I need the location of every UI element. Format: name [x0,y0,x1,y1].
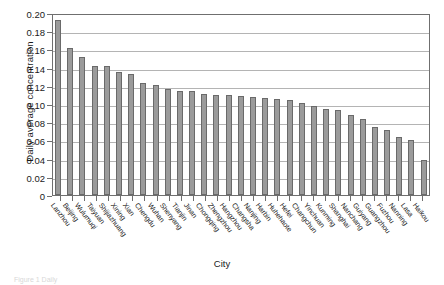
bar [311,106,317,195]
bar [67,48,73,195]
y-tick-label: 0.16 [27,45,46,56]
bar [274,99,280,195]
bar [165,89,171,195]
bar [104,66,110,195]
bar [153,85,159,195]
y-tick-label: 0.12 [27,81,46,92]
bar [421,160,427,195]
bar [408,140,414,195]
bar [250,97,256,195]
bar [116,72,122,195]
figure-caption-fragment: Figure 1 Daily [14,276,57,283]
bar [262,98,268,195]
bar [396,137,402,195]
x-axis-tick-labels: LanzhouBeijingWulumuqiTaiyuanShijiazhuan… [52,201,430,257]
y-tick-label: 0.06 [27,136,46,147]
bar [238,96,244,195]
chart-figure: Daily average concentration 0.200.180.16… [0,0,444,285]
y-tick-label: 0.04 [27,154,46,165]
bar [55,20,61,195]
bar [299,103,305,195]
bar [92,66,98,195]
plot-area [52,14,430,196]
x-axis-title: City [0,258,444,269]
bar [335,110,341,195]
bar [384,130,390,195]
bar [287,100,293,195]
y-tick-label: 0.18 [27,27,46,38]
bar [226,95,232,195]
y-axis-ticks: 0.200.180.160.140.120.100.080.060.040.02… [0,0,52,196]
bar [213,95,219,195]
bar [177,91,183,195]
bar [323,109,329,195]
y-tick-label: 0.14 [27,63,46,74]
y-tick-label: 0.02 [27,172,46,183]
bar [372,127,378,195]
bars-series [53,15,429,195]
bar [79,57,85,195]
bar [360,119,366,195]
bar [140,83,146,195]
bar [128,74,134,195]
y-tick-label: 0.08 [27,118,46,129]
bar [189,91,195,195]
y-tick-label: 0.10 [27,100,46,111]
y-tick-label: 0 [40,191,45,202]
y-tick-label: 0.20 [27,9,46,20]
bar [348,115,354,195]
bar [201,94,207,195]
